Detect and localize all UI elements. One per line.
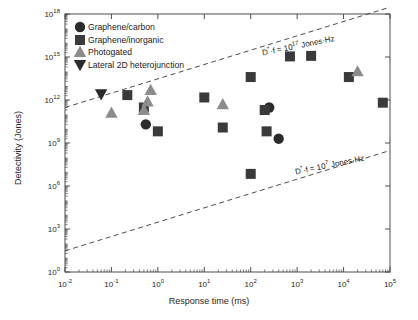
y-tick-label-3: 109 [32, 137, 60, 148]
data-point [141, 95, 153, 106]
legend-label-2: Photogated [88, 47, 132, 57]
x-tick-label-7: 105 [380, 278, 400, 289]
legend-marker-glyph [74, 60, 86, 71]
legend-marker-glyph [75, 22, 85, 32]
x-tick-label-0: 10-2 [55, 278, 75, 289]
data-point [153, 126, 163, 136]
y-tick-label-0: 100 [32, 266, 60, 277]
x-tick-label-3: 101 [194, 278, 214, 289]
data-point [105, 107, 117, 118]
legend-label-3: Lateral 2D heterojunction [88, 60, 184, 70]
data-point [141, 119, 151, 129]
series-photogated [105, 65, 364, 118]
data-point [246, 72, 256, 82]
series-lateral-2d-heterojunction [95, 89, 107, 100]
x-tick-label-2: 100 [148, 278, 168, 289]
x-tick-label-5: 103 [287, 278, 307, 289]
legend-label-0: Graphene/carbon [88, 22, 155, 32]
data-point [122, 90, 132, 100]
legend-marker-glyph [75, 35, 85, 45]
y-tick-label-4: 1012 [32, 94, 60, 105]
data-point [273, 133, 283, 143]
data-point [95, 89, 107, 100]
legend-marker-triangle-down [72, 58, 88, 72]
y-tick-label-1: 103 [32, 223, 60, 234]
data-point [260, 105, 270, 115]
legend-marker-glyph [74, 46, 86, 57]
y-axis-title: Detectivity (Jones) [13, 78, 23, 218]
data-point [262, 126, 272, 136]
x-tick-label-1: 10-1 [101, 278, 121, 289]
data-point [285, 51, 295, 61]
data-point [344, 72, 354, 82]
data-point [217, 98, 229, 109]
y-tick-label-6: 1018 [32, 8, 60, 19]
data-point [246, 169, 256, 179]
y-tick-label-5: 1015 [32, 51, 60, 62]
detectivity-vs-response-time-chart: Response time (ms) Detectivity (Jones) 1… [0, 0, 418, 320]
x-axis-title: Response time (ms) [0, 296, 418, 306]
x-tick-label-4: 102 [241, 278, 261, 289]
data-point [351, 65, 363, 76]
data-point [144, 84, 156, 95]
data-point [306, 51, 316, 61]
data-point [378, 98, 388, 108]
y-tick-label-2: 106 [32, 180, 60, 191]
data-point [199, 92, 209, 102]
x-tick-label-6: 104 [334, 278, 354, 289]
data-point [218, 123, 228, 133]
legend-label-1: Graphene/inorganic [88, 35, 164, 45]
